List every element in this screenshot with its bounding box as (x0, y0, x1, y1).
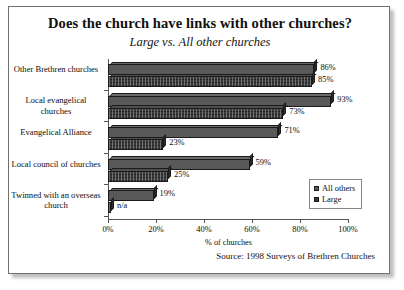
chart-figure: Does the church have links with other ch… (0, 0, 404, 290)
x-axis-tick (156, 219, 157, 223)
bar-large: 73% (108, 108, 283, 119)
bar-front-face (108, 202, 111, 213)
chart-title: Does the church have links with other ch… (9, 15, 391, 32)
x-axis-line (108, 219, 349, 220)
category-label: Local council of churches (10, 159, 102, 169)
bar-large: n/a (108, 202, 111, 213)
x-axis-tick-label: 0% (102, 225, 113, 234)
bar-front-face (108, 139, 163, 150)
bar-side-face (111, 197, 114, 211)
bar-side-face (168, 166, 171, 180)
legend-label-large: Large (322, 194, 341, 205)
legend-item-large: Large (314, 194, 355, 205)
x-axis-tick (108, 219, 109, 223)
x-axis-tick-label: 20% (148, 225, 163, 234)
bar-value-label: 59% (256, 158, 271, 167)
x-axis-tick (300, 219, 301, 223)
bar-value-label: 86% (320, 63, 335, 72)
legend-label-all-others: All others (322, 183, 355, 194)
x-axis-tick (348, 219, 349, 223)
bar-group: Local evangelical churches93%73% (108, 91, 348, 123)
legend-swatch-icon-all-others (314, 186, 319, 191)
category-label: Local evangelical churches (10, 95, 102, 115)
source-note: Source: 1998 Surveys of Brethren Churche… (216, 251, 375, 261)
bar-value-label: 71% (284, 126, 299, 135)
bar-value-label: 93% (337, 95, 352, 104)
bar-front-face (108, 171, 168, 182)
x-axis-tick (252, 219, 253, 223)
bar-value-label: n/a (117, 201, 127, 210)
chart-card: Does the church have links with other ch… (8, 6, 390, 274)
bar-value-label: 25% (174, 170, 189, 179)
bar-value-label: 85% (318, 75, 333, 84)
bar-side-face (312, 71, 315, 85)
bar-side-face (283, 103, 286, 117)
x-axis-tick-label: 80% (292, 225, 307, 234)
y-axis-tick (104, 216, 108, 217)
x-axis-title: % of churches (108, 238, 349, 247)
bar-front-face (108, 76, 312, 87)
chart-subtitle: Large vs. All other churches (9, 35, 391, 50)
bar-group: Evangelical Alliance71%23% (108, 122, 348, 154)
category-label: Evangelical Alliance (10, 127, 102, 137)
legend-swatch-icon-large (314, 197, 319, 202)
bar-value-label: 19% (160, 189, 175, 198)
bar-large: 85% (108, 76, 312, 87)
x-axis-tick-label: 60% (244, 225, 259, 234)
legend-item-all-others: All others (314, 183, 355, 194)
bar-side-face (154, 185, 157, 199)
bar-front-face (108, 108, 283, 119)
bar-side-face (331, 91, 334, 105)
bar-value-label: 73% (289, 107, 304, 116)
bar-large: 25% (108, 171, 168, 182)
bar-group: Other Brethren churches86%85% (108, 59, 348, 91)
bar-side-face (163, 134, 166, 148)
chart-legend: All others Large (309, 179, 362, 209)
category-label: Twinned with an overseas church (10, 190, 102, 210)
bar-value-label: 23% (169, 138, 184, 147)
x-axis-tick (204, 219, 205, 223)
x-axis-tick-label: 100% (338, 225, 358, 234)
bar-side-face (250, 154, 253, 168)
x-axis-tick-label: 40% (196, 225, 211, 234)
bar-large: 23% (108, 139, 163, 150)
category-label: Other Brethren churches (10, 64, 102, 74)
